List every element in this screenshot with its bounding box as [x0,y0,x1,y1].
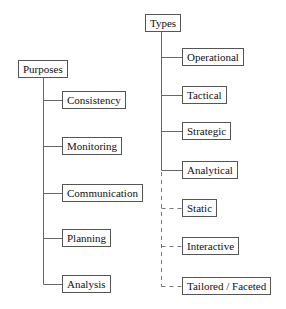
purpose-node-monitoring: Monitoring [62,137,122,155]
purpose-node-analysis: Analysis [62,275,111,293]
type-node-interactive: Interactive [182,237,239,255]
type-node-tactical: Tactical [182,86,227,104]
purposes-root-node: Purposes [18,60,68,78]
type-node-tailored-faceted: Tailored / Faceted [182,277,271,295]
type-node-analytical: Analytical [182,161,238,179]
purpose-node-planning: Planning [62,229,111,247]
type-node-operational: Operational [182,48,244,66]
purpose-node-communication: Communication [62,184,143,202]
types-root-node: Types [145,14,181,32]
connector-lines [0,0,286,309]
purpose-node-consistency: Consistency [62,91,126,109]
type-node-strategic: Strategic [182,122,231,140]
type-node-static: Static [182,199,217,217]
